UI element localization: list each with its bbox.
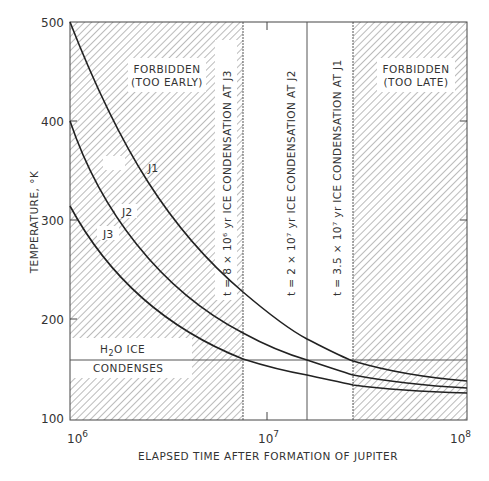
forbidden-early-label-1: FORBIDDEN bbox=[133, 63, 200, 75]
x-tick-1e6: 106 bbox=[67, 429, 88, 446]
y-tick-400: 400 bbox=[41, 115, 64, 129]
y-tick-300: 300 bbox=[41, 214, 64, 228]
vline-2e7-label: t = 2 × 10⁷ yr ICE CONDENSATION AT J2 bbox=[285, 70, 297, 296]
chart: FORBIDDEN (TOO EARLY) FORBIDDEN (TOO LAT… bbox=[0, 0, 489, 481]
x-tick-1e7: 107 bbox=[258, 429, 279, 446]
j3-label: J3 bbox=[102, 228, 113, 241]
forbidden-late-label-2: (TOO LATE) bbox=[384, 76, 449, 88]
y-tick-100: 100 bbox=[41, 412, 64, 426]
y-axis-title: TEMPERATURE, °K bbox=[28, 170, 40, 274]
y-tick-200: 200 bbox=[41, 313, 64, 327]
y-tick-500: 500 bbox=[41, 16, 64, 30]
j1-label: J1 bbox=[147, 162, 158, 175]
x-tick-1e8: 108 bbox=[450, 429, 471, 446]
vline-3_5e7-label: t = 3.5 × 10⁷ yr ICE CONDENSATION AT J1 bbox=[331, 59, 343, 296]
forbidden-late-label-1: FORBIDDEN bbox=[382, 63, 449, 75]
forbidden-early-label-2: (TOO EARLY) bbox=[131, 76, 203, 88]
j2-label: J2 bbox=[121, 206, 132, 219]
x-axis-title: ELAPSED TIME AFTER FORMATION OF JUPITER bbox=[138, 450, 398, 462]
vline-8e6-label: t = 8 × 10⁶ yr ICE CONDENSATION AT J3 bbox=[221, 70, 233, 296]
condenses-label: CONDENSES bbox=[93, 362, 164, 374]
